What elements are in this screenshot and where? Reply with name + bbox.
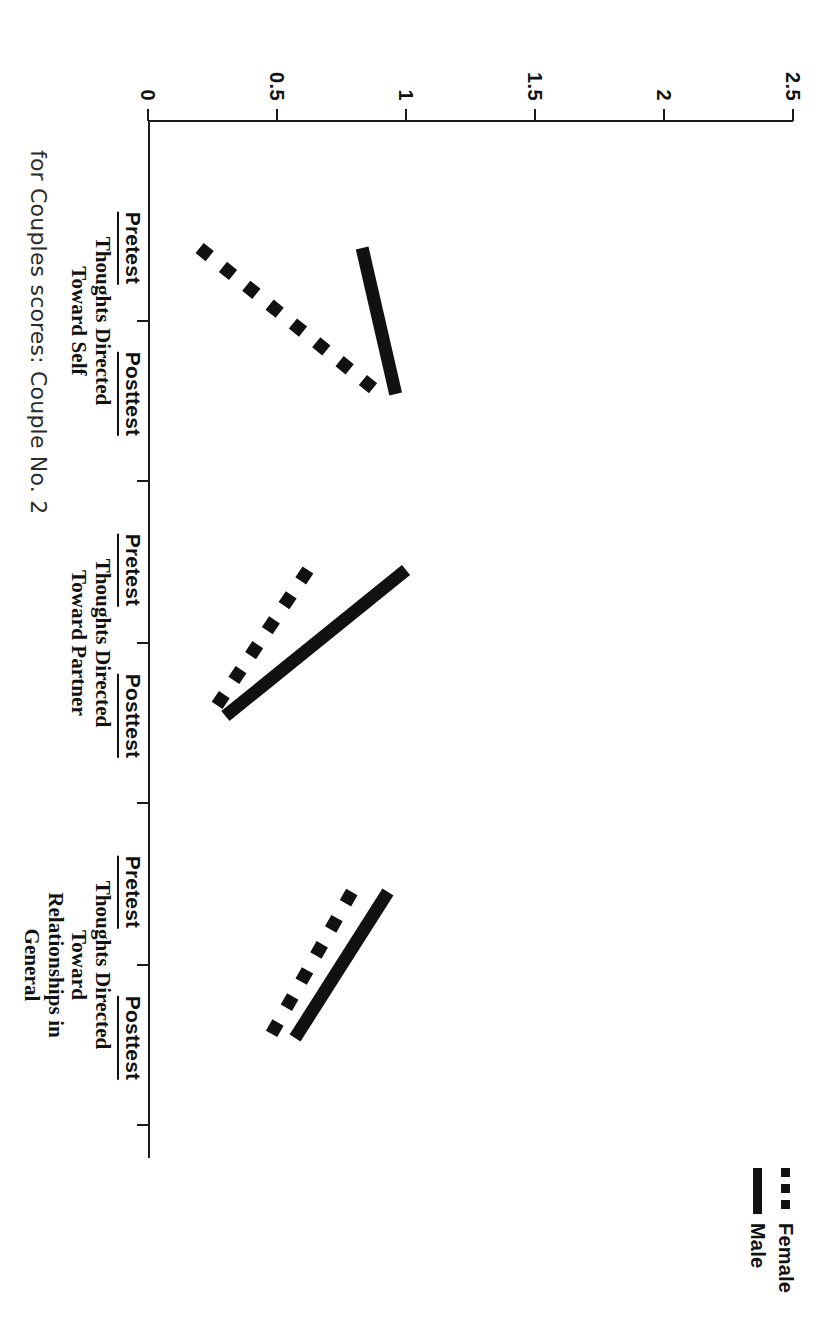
phase-label-posttest: Posttest [117, 996, 145, 1080]
phase-label-posttest: Posttest [117, 352, 145, 436]
rotated-figure-root: 00.511.522.5 PretestPosttestThoughts Dir… [0, 0, 817, 1324]
value-tick-label: 0.5 [265, 72, 288, 101]
dotted-line-icon [782, 1168, 791, 1214]
female-segment [200, 248, 381, 394]
solid-line-icon [754, 1168, 763, 1214]
series-lines [133, 120, 793, 1170]
legend-item-male: Male [745, 1168, 771, 1318]
male-segment [362, 248, 396, 394]
female-series [200, 248, 381, 1038]
value-tick-label: 0 [136, 89, 159, 101]
phase-label-pretest: Pretest [117, 534, 145, 607]
figure-caption: for Couples scores: Couple No. 2 [26, 150, 51, 514]
phase-label-pretest: Pretest [117, 212, 145, 285]
phase-label-posttest: Posttest [117, 674, 145, 758]
group-label: Thoughts Directed Toward Self [67, 237, 114, 406]
male-segment [295, 892, 388, 1038]
value-tick-label: 1 [394, 89, 417, 101]
plot-area: 00.511.522.5 [133, 120, 793, 1170]
value-tick-label: 1.5 [523, 72, 546, 101]
legend-label-male: Male [747, 1223, 770, 1268]
legend-label-female: Female [775, 1223, 798, 1293]
group-label: Thoughts Directed Toward Relationships i… [20, 863, 114, 1068]
group-label: Thoughts Directed Toward Partner [67, 559, 114, 728]
value-tick-label: 2 [652, 89, 675, 101]
legend-item-female: Female [773, 1168, 799, 1318]
figure: 00.511.522.5 PretestPosttestThoughts Dir… [0, 0, 817, 1324]
value-tick-label: 2.5 [781, 72, 804, 101]
legend: Female Male [743, 1168, 799, 1318]
phase-label-pretest: Pretest [117, 856, 145, 929]
